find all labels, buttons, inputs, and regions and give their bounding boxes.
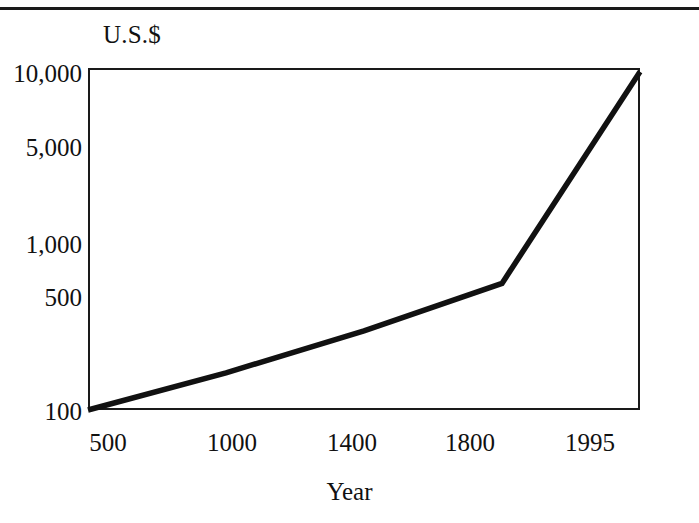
y-tick-label: 1,000 — [0, 232, 82, 257]
x-tick-label: 1000 — [207, 430, 257, 455]
plot-area-frame — [88, 68, 640, 410]
y-axis-unit-label: U.S.$ — [103, 22, 161, 47]
x-tick-label: 1400 — [327, 430, 377, 455]
y-tick-label: 5,000 — [0, 135, 82, 160]
y-tick-label: 100 — [0, 399, 82, 424]
x-axis-tick-labels: 500 1000 1400 1800 1995 — [0, 430, 699, 464]
x-tick-label: 1800 — [445, 430, 495, 455]
x-tick-label: 1995 — [565, 430, 615, 455]
x-tick-label: 500 — [89, 430, 127, 455]
x-axis-title: Year — [0, 479, 699, 504]
y-tick-label: 10,000 — [0, 61, 82, 86]
chart-figure: U.S.$ 10,000 5,000 1,000 500 100 500 100… — [0, 0, 699, 523]
y-tick-label: 500 — [0, 285, 82, 310]
